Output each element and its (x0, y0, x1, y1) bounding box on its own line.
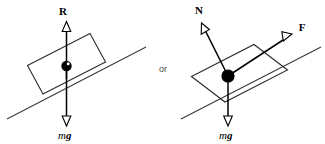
weight-label-m-left: m (58, 129, 66, 141)
normal-force-label-right: N (195, 4, 203, 16)
friction-force-arrowhead-right (282, 32, 292, 41)
weight-label-m-right: m (219, 129, 227, 141)
incline-surface-right (181, 47, 321, 119)
right-diagram: N F mg (181, 4, 321, 141)
center-of-mass-dot-right (221, 69, 234, 82)
normal-force-arrowhead-right (201, 23, 209, 34)
center-of-mass-dot-left (61, 61, 71, 71)
normal-force-shaft-right (205, 30, 228, 76)
left-diagram: R mg (7, 5, 146, 141)
weight-label-left: mg (58, 129, 72, 141)
conjunction-label: or (159, 64, 167, 74)
diagram-canvas: R mg or N F (0, 0, 325, 144)
incline-surface-left (7, 47, 146, 119)
weight-arrowhead-left (62, 116, 71, 126)
weight-label-right: mg (219, 129, 233, 141)
weight-label-g-left: g (65, 129, 72, 141)
center-of-mass-highlight-left (67, 62, 70, 65)
block-right (192, 45, 288, 103)
normal-reaction-arrowhead-left (62, 22, 71, 32)
normal-reaction-label-left: R (59, 5, 68, 17)
weight-label-g-right: g (226, 129, 233, 141)
weight-arrowhead-right (224, 116, 233, 126)
free-body-diagram-figure: R mg or N F (0, 0, 325, 144)
friction-force-label-right: F (299, 21, 306, 33)
